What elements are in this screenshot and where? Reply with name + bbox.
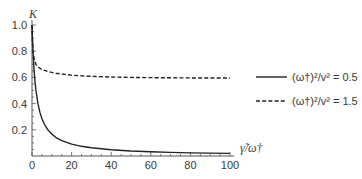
x-tick-label: 40 bbox=[105, 159, 117, 171]
y-tick-label: 0.4 bbox=[12, 98, 27, 110]
y-tick-label: 0.8 bbox=[12, 45, 27, 57]
x-tick-label: 60 bbox=[145, 159, 157, 171]
x-tick-label: 80 bbox=[184, 159, 196, 171]
series-line-solid bbox=[32, 25, 230, 153]
y-tick-label: 0.6 bbox=[12, 71, 27, 83]
tick-labels: 0204060801000.20.40.60.81.0 bbox=[12, 19, 239, 171]
ticks bbox=[32, 25, 230, 156]
y-tick-label: 0.2 bbox=[12, 124, 27, 136]
x-axis-label: γ̃/ω† bbox=[240, 141, 264, 155]
legend-item-dashed: (ω†)²/v² = 1.5 bbox=[256, 95, 358, 107]
series-line-dashed bbox=[32, 25, 230, 78]
legend: (ω†)²/v² = 0.5 (ω†)²/v² = 1.5 bbox=[256, 71, 358, 107]
series-group bbox=[32, 25, 230, 153]
x-tick-label: 0 bbox=[29, 159, 35, 171]
x-tick-label: 100 bbox=[221, 159, 239, 171]
legend-label-dashed: (ω†)²/v² = 1.5 bbox=[292, 95, 358, 107]
y-tick-label: 1.0 bbox=[12, 19, 27, 31]
x-tick-label: 20 bbox=[65, 159, 77, 171]
legend-item-solid: (ω†)²/v² = 0.5 bbox=[256, 71, 358, 83]
axes bbox=[32, 20, 234, 156]
legend-label-solid: (ω†)²/v² = 0.5 bbox=[292, 71, 358, 83]
y-axis-label: K bbox=[28, 7, 38, 21]
line-chart: 0204060801000.20.40.60.81.0 K γ̃/ω† (ω†)… bbox=[0, 0, 362, 179]
